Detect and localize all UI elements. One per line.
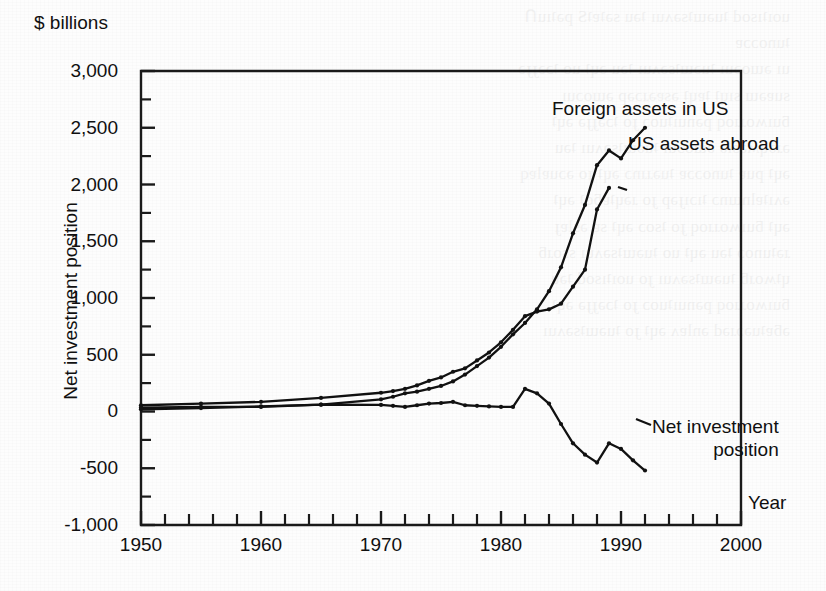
data-point-marker: [451, 370, 455, 374]
data-point-marker: [487, 355, 491, 359]
data-point-marker: [415, 383, 419, 387]
data-point-marker: [607, 441, 611, 445]
data-point-marker: [511, 328, 515, 332]
data-point-marker: [415, 403, 419, 407]
x-axis-minor-ticks: [165, 514, 717, 525]
data-series-layer: [139, 126, 647, 473]
data-point-marker: [631, 458, 635, 462]
series-3: [139, 387, 647, 473]
chart-page: uoıʇısod ʇuǝɯʇsǝʌuı ʇǝu sǝʇɐʇS pǝʇıuՈ ʇu…: [0, 0, 826, 591]
data-point-marker: [415, 390, 419, 394]
data-point-marker: [379, 391, 383, 395]
data-point-marker: [535, 391, 539, 395]
data-point-marker: [595, 460, 599, 464]
chart-canvas: [0, 0, 826, 591]
data-point-marker: [547, 307, 551, 311]
data-point-marker: [427, 401, 431, 405]
data-point-marker: [259, 400, 263, 404]
data-point-marker: [607, 186, 611, 190]
unit-label: $ billions: [34, 12, 108, 34]
data-point-marker: [403, 391, 407, 395]
data-point-marker: [463, 403, 467, 407]
data-point-marker: [391, 404, 395, 408]
leader-line-net-position: [636, 419, 651, 425]
data-point-marker: [523, 387, 527, 391]
data-point-marker: [475, 404, 479, 408]
data-point-marker: [391, 395, 395, 399]
data-point-marker: [571, 285, 575, 289]
data-point-marker: [571, 231, 575, 235]
data-point-marker: [475, 364, 479, 368]
data-point-marker: [499, 345, 503, 349]
data-point-marker: [379, 397, 383, 401]
data-point-marker: [475, 358, 479, 362]
series-label-net-line2: position: [652, 438, 779, 461]
data-point-marker: [487, 350, 491, 354]
data-point-marker: [451, 400, 455, 404]
data-point-marker: [463, 366, 467, 370]
data-point-marker: [547, 289, 551, 293]
data-point-marker: [547, 401, 551, 405]
series-label-us-assets-abroad: US assets abroad: [628, 133, 779, 155]
data-point-marker: [619, 447, 623, 451]
data-point-marker: [319, 396, 323, 400]
data-point-marker: [319, 403, 323, 407]
series-1: [139, 126, 647, 412]
data-point-marker: [595, 207, 599, 211]
data-point-marker: [463, 373, 467, 377]
series-label-foreign-assets: Foreign assets in US: [552, 98, 728, 120]
data-point-marker: [583, 453, 587, 457]
data-point-marker: [487, 404, 491, 408]
data-point-marker: [583, 203, 587, 207]
y-axis-title: Net investment position: [60, 161, 82, 441]
data-point-marker: [607, 148, 611, 152]
data-point-marker: [571, 441, 575, 445]
data-point-marker: [403, 387, 407, 391]
data-point-marker: [559, 422, 563, 426]
series-line: [141, 188, 609, 405]
data-point-marker: [559, 302, 563, 306]
data-point-marker: [439, 384, 443, 388]
data-point-marker: [259, 405, 263, 409]
series-line: [141, 389, 645, 471]
data-point-marker: [403, 405, 407, 409]
data-point-marker: [523, 314, 527, 318]
series-2: [139, 186, 611, 408]
data-point-marker: [535, 310, 539, 314]
data-point-marker: [499, 340, 503, 344]
data-point-marker: [439, 401, 443, 405]
data-point-marker: [139, 405, 143, 409]
data-point-marker: [583, 268, 587, 272]
x-axis-major-ticks: [141, 511, 741, 525]
data-point-marker: [439, 375, 443, 379]
annotation-leader-lines: [618, 187, 651, 425]
data-point-marker: [391, 389, 395, 393]
series-label-net-investment-position: Net investmentposition: [652, 415, 779, 461]
y-axis-major-ticks: [141, 71, 155, 525]
series-label-net-line1: Net investment: [652, 416, 779, 437]
data-point-marker: [559, 265, 563, 269]
data-point-marker: [619, 156, 623, 160]
data-point-marker: [511, 405, 515, 409]
data-point-marker: [643, 468, 647, 472]
data-point-marker: [523, 321, 527, 325]
data-point-marker: [451, 379, 455, 383]
leader-line-us-assets: [618, 187, 627, 190]
data-point-marker: [427, 387, 431, 391]
series-line: [141, 128, 645, 409]
data-point-marker: [199, 405, 203, 409]
data-point-marker: [643, 126, 647, 130]
data-point-marker: [595, 163, 599, 167]
data-point-marker: [379, 403, 383, 407]
data-point-marker: [427, 379, 431, 383]
data-point-marker: [499, 405, 503, 409]
x-axis-title: Year: [748, 492, 786, 514]
